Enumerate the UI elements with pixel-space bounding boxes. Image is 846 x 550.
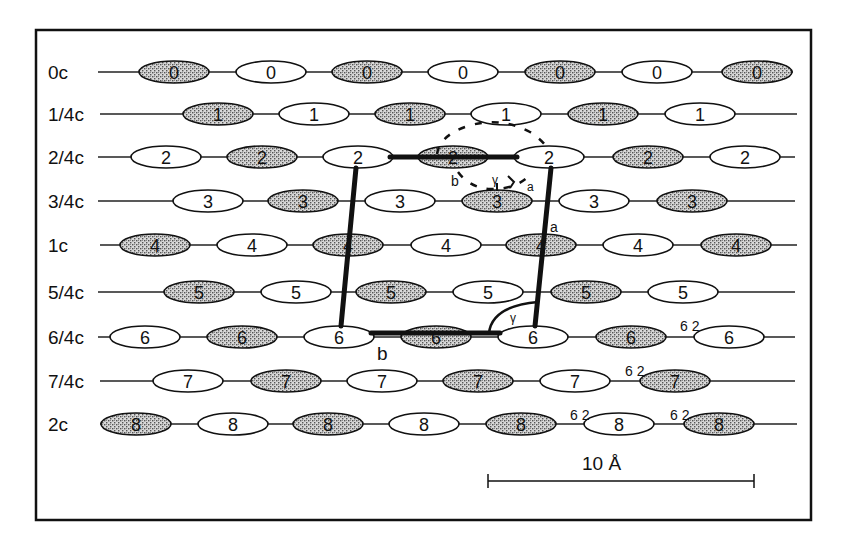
molecule-index: 7 — [570, 372, 580, 392]
crystal-packing-diagram: 0c00000001/4c1111112/4c22222223/4c333333… — [0, 0, 846, 550]
molecule-index: 1 — [501, 105, 511, 125]
molecule-index: 3 — [298, 192, 308, 212]
molecule-index: 7 — [183, 372, 193, 392]
layer-label: 7/4c — [48, 371, 84, 392]
molecule-index: 8 — [419, 415, 429, 435]
molecule-index: 1 — [213, 105, 223, 125]
distance-mark: 6 2 — [670, 407, 690, 423]
molecule-index: 5 — [483, 283, 493, 303]
molecule-index: 6 — [626, 328, 636, 348]
molecule-index: 1 — [405, 105, 415, 125]
molecule-index: 8 — [714, 415, 724, 435]
molecule-index: 3 — [687, 192, 697, 212]
molecule-index: 0 — [266, 63, 276, 83]
molecule-index: 1 — [309, 105, 319, 125]
gamma-label: γ — [510, 311, 516, 325]
molecule-index: 2 — [257, 148, 267, 168]
molecule-index: 2 — [643, 148, 653, 168]
molecule-index: 4 — [633, 236, 643, 256]
molecule-index: 3 — [492, 192, 502, 212]
molecule-index: 7 — [281, 372, 291, 392]
layer-row: 7/4c777777 — [48, 370, 795, 392]
molecule-index: 1 — [598, 105, 608, 125]
distance-mark: 6 2 — [625, 363, 645, 379]
molecule-index: 6 — [528, 328, 538, 348]
inset-gamma-label: γ — [492, 173, 498, 187]
molecule-index: 2 — [353, 148, 363, 168]
layer-label: 0c — [48, 62, 68, 83]
molecule-index: 5 — [581, 283, 591, 303]
molecule-index: 2 — [161, 148, 171, 168]
layer-row: 1/4c111111 — [48, 103, 797, 125]
molecule-index: 0 — [652, 63, 662, 83]
layer-row: 3/4c333333 — [48, 190, 795, 212]
molecule-index: 3 — [203, 192, 213, 212]
layer-label: 3/4c — [48, 191, 84, 212]
layer-label: 2c — [48, 414, 68, 435]
layer-label: 1/4c — [48, 104, 84, 125]
layer-label: 6/4c — [48, 327, 84, 348]
molecule-index: 5 — [386, 283, 396, 303]
molecule-index: 8 — [228, 415, 238, 435]
molecule-index: 4 — [441, 236, 451, 256]
molecule-index: 4 — [731, 236, 741, 256]
molecule-index: 0 — [555, 63, 565, 83]
layer-label: 2/4c — [48, 147, 84, 168]
molecule-index: 2 — [544, 148, 554, 168]
molecule-index: 5 — [291, 283, 301, 303]
distance-mark: 6 2 — [570, 407, 590, 423]
molecule-index: 6 — [334, 328, 344, 348]
inset-b-label: b — [451, 173, 459, 189]
molecule-index: 5 — [194, 283, 204, 303]
molecule-index: 6 — [237, 328, 247, 348]
molecule-index: 5 — [678, 283, 688, 303]
molecule-index: 8 — [516, 415, 526, 435]
molecule-index: 7 — [670, 372, 680, 392]
molecule-index: 4 — [150, 236, 160, 256]
inset-a-label: a — [527, 180, 534, 194]
molecule-index: 7 — [473, 372, 483, 392]
molecule-index: 0 — [752, 63, 762, 83]
molecule-index: 8 — [614, 415, 624, 435]
molecule-index: 8 — [131, 415, 141, 435]
molecule-index: 0 — [458, 63, 468, 83]
molecule-index: 2 — [740, 148, 750, 168]
layer-label: 5/4c — [48, 282, 84, 303]
molecule-index: 3 — [589, 192, 599, 212]
axis-b-label: b — [377, 343, 388, 364]
axis-a-label: a — [550, 219, 558, 235]
scale-bar-label: 10 Å — [582, 453, 621, 474]
molecule-index: 6 — [724, 328, 734, 348]
layer-row: 0c0000000 — [48, 61, 793, 83]
molecule-index: 0 — [169, 63, 179, 83]
molecule-index: 4 — [247, 236, 257, 256]
molecule-index: 0 — [362, 63, 372, 83]
distance-mark: 6 2 — [680, 318, 700, 334]
molecule-index: 1 — [695, 105, 705, 125]
molecular-layers: 0c00000001/4c1111112/4c22222223/4c333333… — [48, 61, 797, 435]
molecule-index: 8 — [323, 415, 333, 435]
layer-label: 1c — [48, 235, 68, 256]
scale-bar — [488, 474, 754, 488]
molecule-index: 3 — [395, 192, 405, 212]
layer-row: 1c4444444 — [48, 234, 797, 256]
molecule-index: 6 — [140, 328, 150, 348]
layer-row: 5/4c555555 — [48, 281, 795, 303]
molecule-index: 7 — [377, 372, 387, 392]
